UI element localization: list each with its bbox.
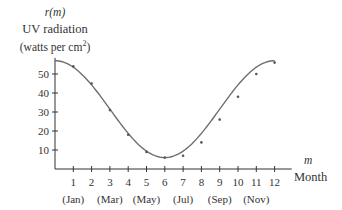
- y-axis-title: UV radiation: [0, 22, 110, 37]
- data-point: [237, 96, 240, 99]
- x-tick-label: 1: [71, 176, 77, 188]
- x-axis-variable-label: m: [304, 154, 312, 166]
- y-axis-units-close: ): [86, 41, 90, 53]
- y-tick-label: 20: [38, 125, 50, 137]
- x-tick-label: 10: [233, 176, 245, 188]
- data-point: [218, 118, 221, 121]
- x-tick-label: 3: [107, 176, 113, 188]
- x-tick-label: 6: [162, 176, 168, 188]
- x-tick-label: 8: [199, 176, 205, 188]
- x-month-label: (Sep): [208, 193, 232, 206]
- y-tick-label: 30: [38, 106, 50, 118]
- data-point: [145, 151, 148, 154]
- x-tick-label: 2: [89, 176, 95, 188]
- data-point: [127, 134, 130, 137]
- x-tick-label: 12: [269, 176, 280, 188]
- data-point: [90, 82, 93, 85]
- y-tick-label: 50: [38, 68, 50, 80]
- fitted-curve: [55, 61, 275, 158]
- data-point: [273, 61, 276, 64]
- x-tick-label: 7: [180, 176, 186, 188]
- data-point: [182, 154, 185, 157]
- y-axis-function-label: r(m): [0, 6, 110, 18]
- x-month-label: (Jan): [62, 193, 84, 206]
- y-tick-label: 40: [38, 87, 50, 99]
- uv-radiation-chart: 1020304050123456789101112(Jan)(Mar)(May)…: [0, 0, 342, 210]
- data-point: [255, 73, 258, 76]
- data-point: [72, 65, 75, 68]
- x-tick-label: 9: [217, 176, 223, 188]
- x-tick-label: 4: [125, 176, 131, 188]
- y-axis-units: (watts per cm2): [0, 39, 110, 53]
- x-tick-label: 5: [144, 176, 150, 188]
- data-point: [109, 109, 112, 112]
- x-month-label: (Nov): [243, 193, 270, 206]
- data-point: [200, 141, 203, 144]
- x-month-label: (Mar): [97, 193, 123, 206]
- x-tick-label: 11: [251, 176, 262, 188]
- x-axis-title: Month: [294, 170, 327, 185]
- data-point: [164, 156, 167, 159]
- x-month-label: (Jul): [173, 193, 194, 206]
- x-month-label: (May): [133, 193, 161, 206]
- y-axis-units-text: (watts per cm: [20, 41, 83, 53]
- y-tick-label: 10: [38, 144, 50, 156]
